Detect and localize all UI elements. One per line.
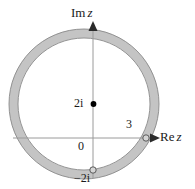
label-center-point: 2i (74, 97, 83, 109)
annulus-ring (9, 29, 159, 179)
real-axis (13, 134, 160, 143)
imaginary-axis-label: Imz (71, 6, 93, 19)
annulus-band (14, 34, 155, 175)
imaginary-axis-label-text: Im (71, 5, 85, 20)
point-marker-3 (143, 135, 149, 141)
real-axis-label-text: Re (160, 129, 174, 144)
annulus-inner-edge (18, 38, 150, 170)
label-real-intercept: 3 (126, 118, 132, 130)
point-marker-neg2i (90, 167, 96, 173)
label-origin: 0 (78, 140, 84, 152)
real-axis-arrowhead (150, 134, 160, 143)
figure-canvas (0, 0, 195, 189)
real-axis-variable: z (174, 129, 181, 144)
complex-plane-figure: Imz Rez 2i 0 3 −2i (0, 0, 195, 189)
imaginary-axis (89, 21, 98, 178)
imaginary-axis-variable: z (85, 5, 92, 20)
imaginary-axis-arrowhead (89, 21, 98, 31)
point-marker-2i (91, 101, 97, 107)
real-axis-label: Rez (160, 130, 182, 143)
label-imaginary-intercept: −2i (74, 172, 90, 184)
